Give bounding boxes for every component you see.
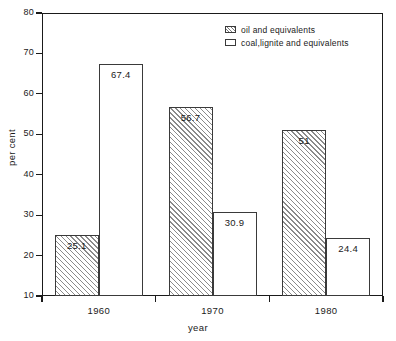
x-tick-label: 1980	[296, 305, 356, 316]
y-tick-label: 20	[8, 251, 34, 260]
y-tick-label: 50	[8, 129, 34, 138]
bar-value-label: 24.4	[327, 243, 369, 254]
bar: 30.9	[213, 212, 257, 296]
x-tick-label: 1970	[183, 305, 243, 316]
y-tick-label: 60	[8, 89, 34, 98]
x-tick-mark	[155, 296, 156, 302]
y-axis-title: per cent	[6, 118, 17, 178]
legend: oil and equivalents coal,lignite and equ…	[225, 24, 349, 50]
legend-item-oil: oil and equivalents	[225, 24, 349, 35]
bar-value-label: 67.4	[100, 69, 142, 80]
bar: 25.1	[55, 235, 99, 296]
y-tick-mark	[36, 12, 42, 13]
y-tick-mark	[36, 134, 42, 135]
bar: 56.7	[169, 107, 213, 296]
y-tick-label: 80	[8, 8, 34, 17]
y-tick-label: 10	[8, 291, 34, 300]
y-tick-mark	[36, 255, 42, 256]
y-tick-mark	[36, 215, 42, 216]
x-tick-mark	[41, 296, 42, 302]
bar-chart: per cent 1020304050607080 196019701980 y…	[0, 0, 396, 341]
bar-value-label: 51	[283, 135, 325, 146]
bar-value-label: 30.9	[214, 217, 256, 228]
y-tick-mark	[36, 93, 42, 94]
bar-value-label: 25.1	[56, 240, 98, 251]
x-tick-mark	[382, 296, 383, 302]
legend-item-coal: coal,lignite and equivalents	[225, 37, 349, 48]
legend-swatch-hatched-icon	[225, 26, 236, 33]
y-tick-label: 70	[8, 48, 34, 57]
legend-label-oil: oil and equivalents	[241, 25, 315, 35]
bar-value-label: 56.7	[170, 112, 212, 123]
y-tick-label: 40	[8, 170, 34, 179]
y-tick-label: 30	[8, 210, 34, 219]
legend-swatch-open-icon	[225, 39, 236, 46]
y-tick-mark	[36, 174, 42, 175]
x-tick-label: 1960	[69, 305, 129, 316]
bar: 51	[282, 130, 326, 296]
bar: 67.4	[99, 64, 143, 296]
bar: 24.4	[326, 238, 370, 296]
legend-label-coal: coal,lignite and equivalents	[241, 38, 349, 48]
x-axis-title: year	[0, 322, 396, 333]
x-tick-mark	[269, 296, 270, 302]
y-tick-mark	[36, 53, 42, 54]
